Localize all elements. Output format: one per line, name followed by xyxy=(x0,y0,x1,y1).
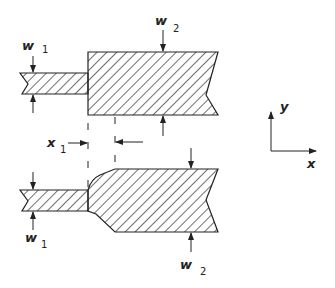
x1-sub: 1 xyxy=(60,144,66,155)
x-axis-label: x xyxy=(306,156,316,171)
top-narrow-section xyxy=(20,73,88,94)
y-axis-label: y xyxy=(280,99,289,114)
top-w1-sub: 1 xyxy=(42,44,48,55)
bottom-narrow-section xyxy=(20,190,88,211)
top-w1-label: w xyxy=(22,38,35,53)
diagram-canvas: w 1 w 2 x 1 w 1 w 2 y x xyxy=(0,0,335,288)
bottom-w1-sub: 1 xyxy=(41,239,47,250)
bottom-taper-structure xyxy=(20,169,218,232)
top-w2-sub: 2 xyxy=(173,23,179,34)
top-step-structure xyxy=(20,52,218,115)
bottom-wide-section xyxy=(88,169,218,232)
x1-label: x xyxy=(46,135,56,150)
top-wide-section xyxy=(88,52,218,115)
bottom-w2-sub: 2 xyxy=(200,266,206,277)
top-w2-label: w xyxy=(155,13,168,28)
bottom-w2-label: w xyxy=(180,257,193,272)
bottom-w1-label: w xyxy=(25,230,38,245)
coordinate-axes: y x xyxy=(271,99,316,171)
